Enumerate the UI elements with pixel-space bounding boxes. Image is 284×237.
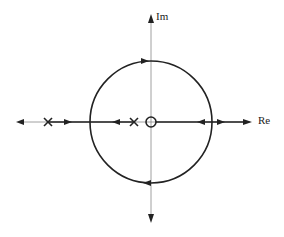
imag-axis-down-arrow-icon bbox=[148, 214, 154, 223]
root-locus-diagram bbox=[0, 0, 284, 237]
imag-axis-label: Im bbox=[156, 10, 168, 22]
direction-arrow-icon bbox=[112, 119, 120, 125]
imag-axis-up-arrow-icon bbox=[148, 14, 154, 23]
direction-arrow-icon bbox=[197, 119, 205, 125]
real-axis-left-arrow-icon bbox=[16, 119, 24, 125]
real-axis-right-arrow-icon bbox=[243, 119, 252, 125]
direction-arrow-icon bbox=[141, 58, 149, 64]
direction-arrow-icon bbox=[64, 119, 72, 125]
direction-arrow-icon bbox=[143, 180, 151, 186]
real-axis-label: Re bbox=[258, 114, 270, 126]
direction-arrow-icon bbox=[217, 119, 225, 125]
